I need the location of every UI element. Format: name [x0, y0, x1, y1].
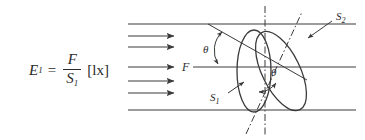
theta-arc-top	[214, 32, 222, 64]
s1-leader-line	[228, 82, 244, 93]
surface-s2-label: S2	[336, 10, 346, 25]
theta-label-top: θ	[203, 43, 209, 55]
surface-s1-label: S1	[210, 91, 220, 106]
figure-root: E1 = F S1 [lx]	[0, 0, 365, 140]
flux-label: F	[181, 60, 190, 74]
surface-s1-label-subscript: 1	[216, 97, 220, 106]
surface-s2-ellipse	[245, 24, 317, 118]
surface-s2-label-subscript: 2	[342, 16, 346, 25]
surface-s1-ellipse	[237, 30, 271, 112]
optics-diagram: F θ θ S1 S2	[0, 0, 365, 140]
theta-label-center: θ	[271, 66, 277, 78]
flux-arrows	[128, 36, 174, 93]
